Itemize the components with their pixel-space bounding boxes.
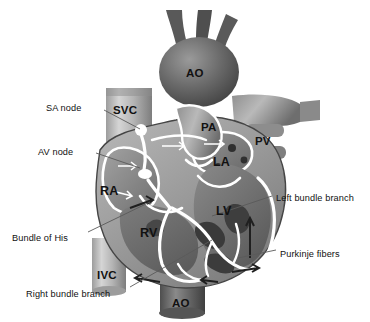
heart-illustration bbox=[0, 0, 370, 322]
label-inferior-vena-cava: IVC bbox=[97, 270, 117, 282]
label-aorta: AO bbox=[186, 68, 204, 80]
label-right-bundle-branch: Right bundle branch bbox=[26, 290, 110, 299]
label-pulmonary-artery: PA bbox=[201, 122, 217, 134]
label-left-ventricle: LV bbox=[216, 205, 231, 218]
pa-branch-stub bbox=[300, 100, 320, 122]
la-vein-ostium-2 bbox=[241, 157, 248, 164]
label-left-atrium: LA bbox=[213, 156, 230, 169]
label-right-atrium: RA bbox=[100, 185, 118, 198]
svc-top-shade bbox=[106, 88, 152, 96]
right-pulmonary-artery bbox=[232, 94, 300, 126]
label-sa-node: SA node bbox=[46, 104, 81, 113]
av-node-marker bbox=[138, 169, 152, 179]
label-bundle-of-his: Bundle of His bbox=[12, 234, 68, 243]
brachiocephalic-trunk bbox=[166, 10, 187, 44]
label-descending-aorta: AO bbox=[172, 298, 190, 310]
label-superior-vena-cava: SVC bbox=[113, 105, 137, 117]
label-right-ventricle: RV bbox=[140, 227, 158, 240]
label-purkinje-fibers: Purkinje fibers bbox=[280, 250, 340, 259]
label-pulmonary-veins: PV bbox=[255, 136, 271, 148]
label-left-bundle-branch: Left bundle branch bbox=[276, 194, 354, 203]
label-av-node: AV node bbox=[38, 148, 73, 157]
heart-conduction-diagram: SA nodeAV nodeBundle of HisRight bundle … bbox=[0, 0, 370, 322]
la-vein-ostium-1 bbox=[228, 144, 236, 152]
